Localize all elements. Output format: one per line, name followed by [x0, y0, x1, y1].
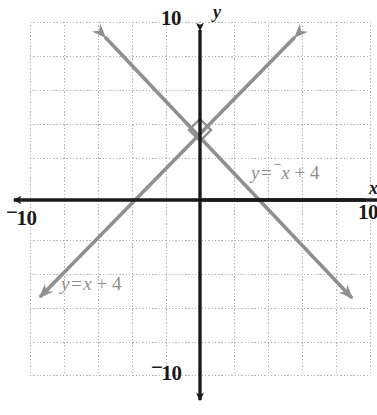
y-axis-name-label: y: [213, 2, 221, 23]
y-max-value: 10: [161, 6, 181, 30]
x-min-value: 10: [16, 206, 36, 230]
coordinate-plane-figure: −10 10 10 −10 y x y = ⁻x + 4 y = x + 4: [0, 0, 377, 415]
y-min-value: 10: [161, 361, 181, 385]
x-axis-min-label: −10: [6, 200, 36, 231]
eq-pos-constant: 4: [112, 273, 122, 294]
x-max-value: 10: [358, 200, 377, 224]
eq-neg-plus: +: [295, 162, 306, 183]
eq-pos-plus: +: [97, 273, 108, 294]
eq-pos-equals: =: [71, 273, 82, 294]
eq-pos-variable: x: [83, 273, 91, 294]
equation-label-negative-x-plus-4: y = ⁻x + 4: [251, 157, 320, 184]
eq-neg-constant: 4: [310, 162, 320, 183]
y-axis-min-label: −10: [151, 355, 181, 386]
equation-label-x-plus-4: y = x + 4: [61, 273, 122, 295]
eq-neg-equals: =: [261, 162, 272, 183]
graph-canvas: [0, 0, 377, 415]
x-axis-max-label: 10: [358, 200, 377, 225]
x-axis-name-label: x: [369, 178, 377, 199]
eq-neg-variable: x: [281, 162, 289, 183]
y-axis-max-label: 10: [161, 6, 181, 31]
